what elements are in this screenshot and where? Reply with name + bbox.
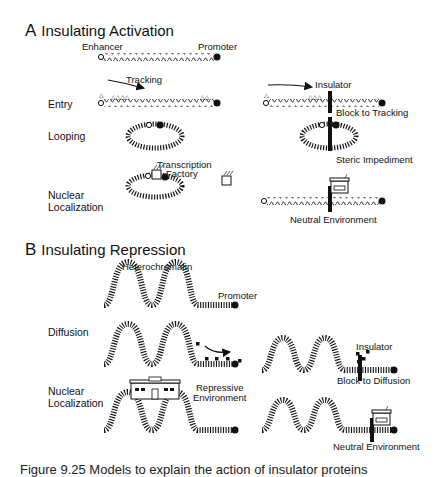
steric-impediment-fiber bbox=[302, 117, 356, 151]
neutral-environment-label-b: Neutral Environment bbox=[333, 441, 420, 452]
row-label-nuclear-a: Nuclear bbox=[48, 189, 84, 201]
neutral-environment-fiber-a bbox=[261, 174, 385, 212]
row-label-nuclear-b: Nuclear bbox=[48, 385, 84, 397]
repressive-environment-label-2: Environment bbox=[193, 392, 246, 403]
neutral-environment-fiber-b bbox=[262, 400, 398, 442]
standalone-factory-icon bbox=[222, 171, 233, 185]
factory-icon bbox=[152, 170, 161, 179]
row-label-diffusion: Diffusion bbox=[48, 326, 89, 338]
svg-text:△: △ bbox=[99, 92, 104, 98]
tracking-label: Tracking bbox=[126, 74, 162, 85]
insulator-label-b: Insulator bbox=[356, 341, 392, 352]
section-b-letter: B bbox=[25, 240, 36, 259]
steric-impediment-label: Steric Impediment bbox=[336, 154, 413, 165]
svg-text:△: △ bbox=[264, 92, 269, 98]
promoter-dot-icon bbox=[214, 100, 221, 107]
section-b-title-text: Insulating Repression bbox=[41, 241, 185, 258]
promoter-dot-icon bbox=[214, 54, 221, 61]
tracking-arrow-icon bbox=[268, 85, 311, 87]
transcription-factory-label-2: Factory bbox=[166, 168, 198, 179]
insulator-bar-icon bbox=[328, 117, 332, 151]
neutral-environment-label-a: Neutral Environment bbox=[290, 214, 377, 225]
neutral-building-icon bbox=[330, 174, 349, 193]
repressive-building-icon bbox=[130, 377, 180, 399]
promoter-label: Promoter bbox=[198, 41, 237, 52]
insulator-label-a: Insulator bbox=[315, 79, 351, 90]
insulator-bar-icon bbox=[328, 91, 332, 113]
row-label-localization-a: Localization bbox=[48, 201, 103, 213]
enhancer-promoter-fiber bbox=[98, 53, 220, 61]
row-label-localization-b: Localization bbox=[48, 397, 103, 409]
diffusion-arrow-icon bbox=[205, 346, 229, 352]
block-to-tracking-label: Block to Tracking bbox=[336, 107, 408, 118]
figure-caption: Figure 9.25 Models to explain the action… bbox=[20, 462, 368, 477]
section-a-title-text: Insulating Activation bbox=[41, 22, 174, 39]
block-to-diffusion-label: Block to Diffusion bbox=[337, 375, 410, 386]
promoter-dot-icon bbox=[379, 100, 386, 107]
section-a-letter: A bbox=[25, 21, 36, 40]
heterochromatin-label: Heterochromatin bbox=[122, 261, 192, 272]
enhancer-label: Enhancer bbox=[82, 41, 123, 52]
row-label-entry: Entry bbox=[48, 98, 73, 110]
row-label-looping: Looping bbox=[48, 130, 85, 142]
looping-fiber bbox=[128, 122, 182, 149]
section-a-title: AInsulating Activation bbox=[25, 21, 174, 41]
diffusion-fiber bbox=[104, 324, 242, 368]
section-b-title: BInsulating Repression bbox=[25, 240, 186, 260]
neutral-building-icon bbox=[372, 406, 391, 425]
promoter-label-b: Promoter bbox=[218, 290, 257, 301]
svg-text:△△: △△ bbox=[200, 94, 210, 100]
